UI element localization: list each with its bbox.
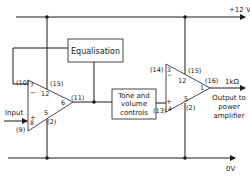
output-label-line1: Output to (212, 94, 246, 102)
output-label-line2: power (218, 103, 240, 111)
amp2-pin-out-ext: (16) (205, 77, 218, 85)
amp1-pin-inv-int: 7 (30, 81, 34, 88)
output-label-line3: amplifier (213, 112, 244, 120)
amp1-pin-noninv-int: 8 (30, 119, 34, 126)
circuit-diagram: Equalisation (10) 7 − (15) 12 6 (11) + 8… (0, 0, 250, 179)
positive-rail-label: +12 V (229, 6, 250, 14)
tone-label-line1: Tone and (117, 92, 150, 100)
amp2-pin-vplus-int: 12 (178, 77, 186, 85)
amp1-pin-out-ext: (11) (71, 94, 84, 102)
tone-label-line3: controls (120, 109, 148, 117)
equalisation-label: Equalisation (71, 47, 120, 56)
amp2-pin-gnd-ext: (2) (186, 104, 195, 112)
input-label: Input (5, 109, 23, 117)
amp2-pin-vplus-ext: (15) (188, 67, 201, 75)
amp1-pin-out-int: 6 (61, 99, 65, 107)
amp1-pin-vplus-int: 12 (41, 90, 49, 98)
amp1-pin-gnd-ext: (2) (47, 118, 56, 126)
amp2-pin-out-int: 1 (200, 84, 204, 92)
amp1-pin-inv-ext: (10) (16, 79, 29, 87)
amp2-pin-noninv-ext: (13) (153, 107, 166, 115)
amp1-minus-sign: − (30, 89, 36, 97)
output-impedance: 1kΩ (225, 78, 240, 86)
input-pin-label: (9) (16, 126, 25, 134)
tone-label-line2: volume (121, 100, 147, 108)
amp2-pin-gnd-int: 5 (184, 95, 188, 103)
amp2-pin-noninv-int: 4 (168, 105, 172, 112)
amp2-pin-inv-ext: (14) (150, 66, 163, 74)
amp1-pin-vplus-ext: (15) (50, 80, 63, 88)
junction-dot (92, 100, 96, 104)
ground-rail-label: 0V (226, 165, 235, 173)
amp2-minus-sign: − (167, 71, 172, 78)
amp1-pin-gnd-int: 5 (44, 109, 48, 117)
